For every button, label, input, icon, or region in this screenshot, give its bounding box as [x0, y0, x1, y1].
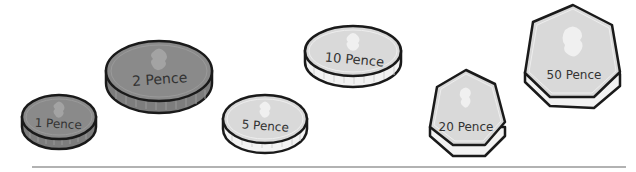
monarch-emblem-icon — [347, 33, 360, 51]
coin-5-pence: 5 Pence — [223, 95, 307, 153]
coin-1-pence: 1 Pence — [22, 95, 96, 149]
coins-diagram: 1 Pence 2 Pence 5 Pence 10 Pence — [0, 0, 636, 172]
coin-10-pence: 10 Pence — [305, 26, 401, 87]
coin-label-20-pence: 20 Pence — [439, 120, 494, 134]
monarch-emblem-icon — [563, 27, 583, 57]
coin-label-1-pence: 1 Pence — [34, 116, 82, 132]
coin-2-pence: 2 Pence — [106, 41, 212, 113]
coin-label-50-pence: 50 Pence — [547, 68, 602, 82]
coin-20-pence: 20 Pence — [430, 70, 505, 156]
coin-50-pence: 50 Pence — [525, 5, 620, 108]
